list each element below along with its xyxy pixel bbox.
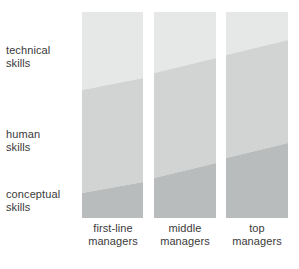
bar-first-line-managers	[82, 12, 143, 218]
x-axis-label-middle-managers: middle managers	[150, 222, 220, 248]
bar-middle-managers	[154, 12, 216, 218]
x-axis-label-top-managers-line1: top	[249, 222, 265, 234]
bar-top-managers-svg	[226, 12, 288, 218]
x-axis-label-first-line-managers-line1: first-line	[93, 222, 133, 234]
x-axis-label-middle-managers-line2: managers	[150, 235, 220, 248]
segment-human-skills-first-line	[82, 78, 143, 193]
x-axis-label-top-managers: top managers	[222, 222, 292, 248]
x-axis-label-first-line-managers: first-line managers	[78, 222, 148, 248]
bar-top-managers	[226, 12, 288, 218]
bar-first-line-managers-svg	[82, 12, 143, 218]
x-axis-label-middle-managers-line1: middle	[168, 222, 201, 234]
bar-middle-managers-svg	[154, 12, 216, 218]
segment-human-skills-top	[226, 40, 288, 158]
x-axis-label-first-line-managers-line2: managers	[78, 235, 148, 248]
segment-technical-skills-first-line	[82, 12, 143, 90]
x-axis-label-top-managers-line2: managers	[222, 235, 292, 248]
skills-by-management-level-chart: technical skills human skills conceptual…	[0, 0, 299, 269]
segment-human-skills-middle	[154, 58, 216, 178]
